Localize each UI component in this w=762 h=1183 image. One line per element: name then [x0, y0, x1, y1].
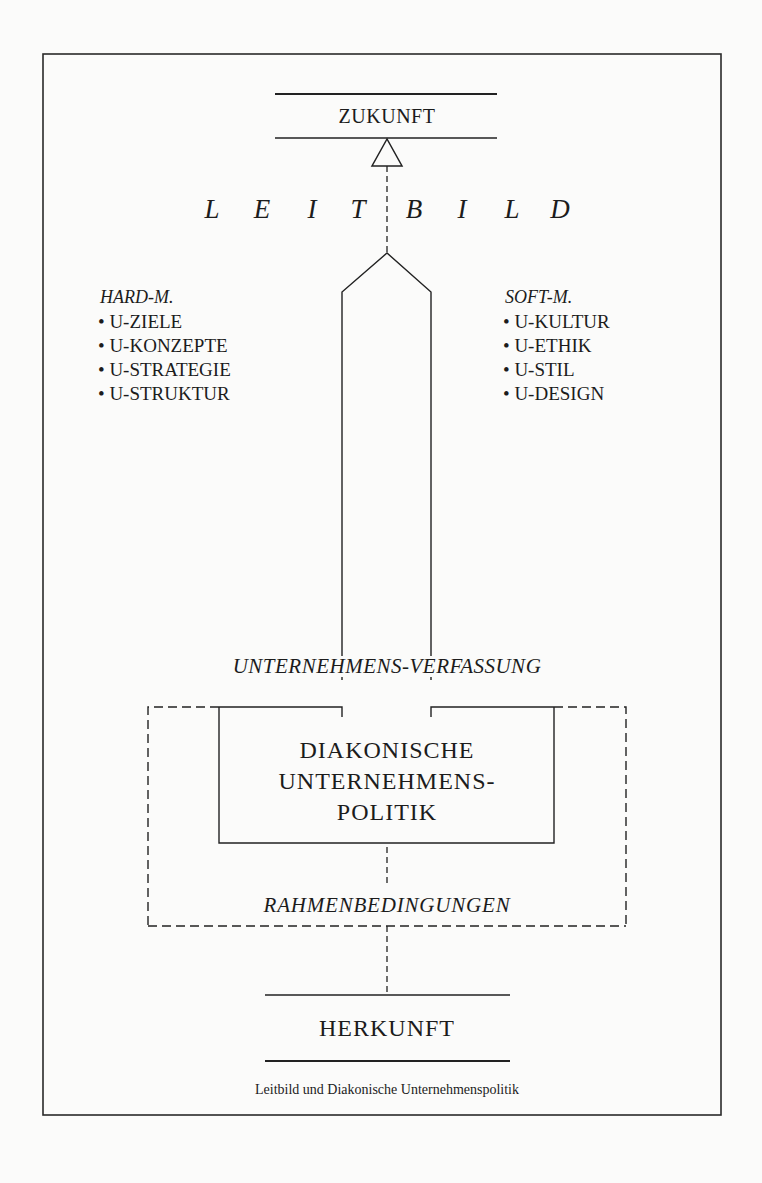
- rahmen-dashed-box-top-right: [554, 707, 626, 926]
- soft-m-item: • U-DESIGN: [503, 384, 604, 403]
- core-box-line: DIAKONISCHE: [279, 735, 496, 766]
- core-box-title: DIAKONISCHE UNTERNEHMENS- POLITIK: [279, 735, 496, 828]
- shaft-lower-left: [219, 707, 342, 717]
- hard-m-item: • U-STRATEGIE: [98, 360, 231, 379]
- hard-m-item: • U-ZIELE: [98, 312, 182, 331]
- rahmen-dashed-box-top-left: [148, 707, 219, 926]
- rahmen-label: RAHMENBEDINGUNGEN: [264, 895, 511, 916]
- soft-m-item: • U-KULTUR: [503, 312, 610, 331]
- leitbild-diagram: ZUKUNFT L E I T B I L D HARD-M. • U-ZIEL…: [0, 0, 762, 1183]
- shaft-upper: [342, 253, 431, 680]
- soft-m-item: • U-ETHIK: [503, 336, 591, 355]
- verfassung-label: UNTERNEHMENS-VERFASSUNG: [229, 656, 546, 677]
- herkunft-label: HERKUNFT: [319, 1016, 455, 1040]
- figure-caption: Leitbild und Diakonische Unternehmenspol…: [255, 1083, 519, 1097]
- leitbild-letter: B: [406, 196, 423, 223]
- leitbild-letter: I: [458, 196, 467, 223]
- leitbild-letter: L: [504, 196, 519, 223]
- diagram-lines: [0, 0, 762, 1183]
- leitbild-letter: E: [254, 196, 271, 223]
- core-box-line: UNTERNEHMENS-: [279, 766, 496, 797]
- zukunft-label: ZUKUNFT: [339, 106, 436, 126]
- hard-m-item: • U-KONZEPTE: [98, 336, 228, 355]
- leitbild-letter: D: [550, 196, 570, 223]
- arrowhead-icon: [372, 139, 402, 166]
- leitbild-letter: T: [350, 196, 365, 223]
- core-box-line: POLITIK: [279, 797, 496, 828]
- leitbild-letter: L: [204, 196, 219, 223]
- soft-m-item: • U-STIL: [503, 360, 575, 379]
- hard-m-heading: HARD-M.: [100, 288, 173, 306]
- leitbild-label: L E I T B I L D: [0, 196, 762, 228]
- leitbild-letter: I: [308, 196, 317, 223]
- shaft-lower-right: [431, 707, 554, 717]
- hard-m-item: • U-STRUKTUR: [98, 384, 230, 403]
- soft-m-heading: SOFT-M.: [505, 288, 572, 306]
